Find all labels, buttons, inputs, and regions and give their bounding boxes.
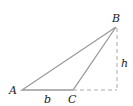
triangle-diagram: A b C B h bbox=[0, 0, 133, 106]
triangle-abc bbox=[22, 27, 116, 90]
vertex-a-label: A bbox=[8, 84, 17, 97]
vertex-c-label: C bbox=[68, 93, 77, 106]
height-h-label: h bbox=[121, 57, 128, 70]
vertex-b-label: B bbox=[111, 12, 120, 25]
side-b-label: b bbox=[44, 93, 51, 106]
